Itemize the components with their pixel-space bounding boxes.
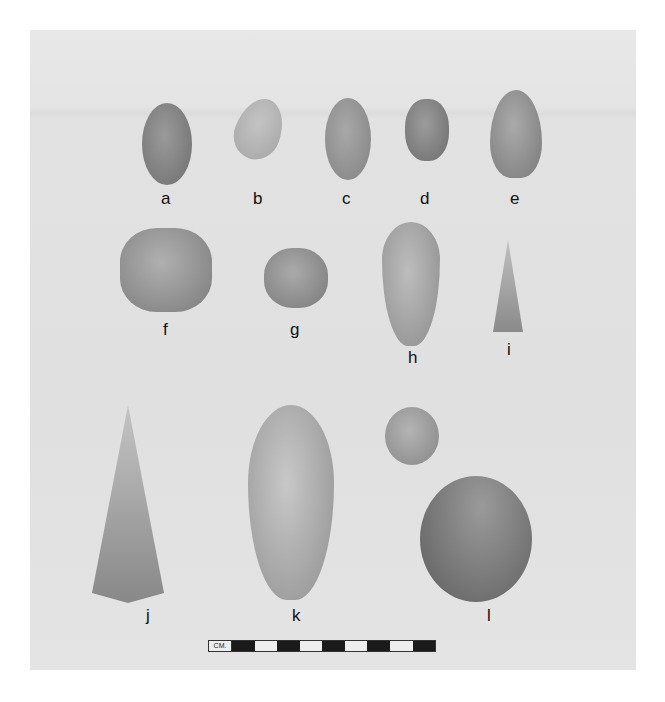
label-k: k: [292, 606, 301, 626]
label-b: b: [253, 189, 262, 209]
shell-g: [264, 248, 328, 308]
label-c: c: [342, 189, 351, 209]
shell-l: [420, 476, 532, 602]
label-e: e: [510, 189, 519, 209]
shell-f: [120, 228, 212, 312]
shell-a: [142, 103, 192, 185]
label-f: f: [163, 320, 168, 340]
scale-bar: CM.: [208, 640, 436, 652]
scale-unit-label: CM.: [209, 641, 232, 651]
shell-round: [385, 407, 439, 465]
label-i: i: [507, 340, 511, 360]
shell-d: [405, 99, 449, 161]
label-j: j: [146, 606, 150, 626]
label-a: a: [161, 189, 170, 209]
label-l: l: [487, 606, 491, 626]
shell-c: [325, 98, 371, 180]
label-d: d: [420, 189, 429, 209]
label-g: g: [290, 320, 299, 340]
label-h: h: [408, 348, 417, 368]
